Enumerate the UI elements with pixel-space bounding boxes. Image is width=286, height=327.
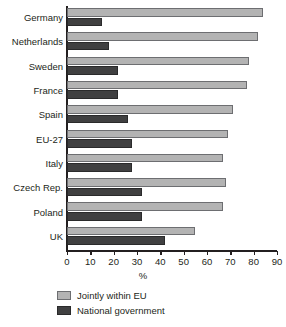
x-axis-tick: [184, 251, 185, 255]
bar-group: [67, 176, 277, 200]
legend-swatch-icon: [57, 291, 71, 300]
x-axis-tick-label: 90: [272, 256, 283, 267]
bar-jointly-within-eu: [67, 227, 195, 236]
x-axis-tick-label: 20: [108, 256, 119, 267]
chart-legend: Jointly within EUNational government: [57, 288, 257, 318]
x-axis-tick-label: 60: [202, 256, 213, 267]
bar-group: [67, 55, 277, 79]
x-axis-tick-label: 30: [132, 256, 143, 267]
x-axis-tick: [254, 251, 255, 255]
y-axis-tick-label: Netherlands: [0, 36, 63, 47]
bar-national-government: [67, 236, 165, 245]
bar-jointly-within-eu: [67, 154, 223, 163]
plot-area: [67, 6, 277, 249]
bar-group: [67, 225, 277, 249]
y-axis-tick-label: Germany: [0, 12, 63, 23]
y-axis-tick-label: Czech Rep.: [0, 182, 63, 193]
bar-national-government: [67, 18, 102, 27]
x-axis-tick-label: 0: [64, 256, 69, 267]
bar-group: [67, 79, 277, 103]
x-axis: 0102030405060708090: [67, 251, 277, 269]
legend-item: Jointly within EU: [57, 288, 257, 303]
legend-swatch-icon: [57, 306, 71, 315]
y-axis-tick-label: UK: [0, 231, 63, 242]
y-axis-tick-label: Sweden: [0, 61, 63, 72]
legend-label: Jointly within EU: [77, 290, 147, 301]
bar-national-government: [67, 90, 118, 99]
bar-group: [67, 6, 277, 30]
x-axis-tick: [114, 251, 115, 255]
x-axis-tick: [67, 251, 68, 255]
bar-group: [67, 30, 277, 54]
x-axis-title: %: [0, 270, 286, 281]
x-axis-tick: [230, 251, 231, 255]
x-axis-tick: [137, 251, 138, 255]
x-axis-tick: [277, 251, 278, 255]
x-axis-tick: [160, 251, 161, 255]
bar-group: [67, 128, 277, 152]
bar-national-government: [67, 115, 128, 124]
bar-jointly-within-eu: [67, 81, 247, 90]
x-axis-tick-label: 40: [155, 256, 166, 267]
legend-item: National government: [57, 303, 257, 318]
y-axis-tick-label: Poland: [0, 207, 63, 218]
bar-group: [67, 103, 277, 127]
bar-jointly-within-eu: [67, 178, 226, 187]
bar-national-government: [67, 188, 142, 197]
x-axis-tick-label: 10: [85, 256, 96, 267]
y-axis-tick-label: Italy: [0, 158, 63, 169]
x-axis-tick-label: 80: [248, 256, 259, 267]
x-axis-tick: [90, 251, 91, 255]
bar-national-government: [67, 42, 109, 51]
x-axis-tick-label: 50: [178, 256, 189, 267]
bar-jointly-within-eu: [67, 57, 249, 66]
bar-group: [67, 152, 277, 176]
bar-national-government: [67, 139, 132, 148]
x-axis-tick: [207, 251, 208, 255]
bar-national-government: [67, 163, 132, 172]
bar-jointly-within-eu: [67, 202, 223, 211]
x-axis-tick-label: 70: [225, 256, 236, 267]
bar-group: [67, 200, 277, 224]
y-axis-tick-label: France: [0, 85, 63, 96]
bar-national-government: [67, 212, 142, 221]
bar-jointly-within-eu: [67, 32, 258, 41]
legend-label: National government: [77, 305, 165, 316]
bar-chart: GermanyNetherlandsSwedenFranceSpainEU-27…: [0, 0, 286, 327]
y-axis-tick-label: Spain: [0, 109, 63, 120]
bar-jointly-within-eu: [67, 105, 233, 114]
y-axis-category-labels: GermanyNetherlandsSwedenFranceSpainEU-27…: [0, 6, 63, 249]
bar-jointly-within-eu: [67, 8, 263, 17]
bar-jointly-within-eu: [67, 130, 228, 139]
y-axis-tick-label: EU-27: [0, 134, 63, 145]
bar-national-government: [67, 66, 118, 75]
